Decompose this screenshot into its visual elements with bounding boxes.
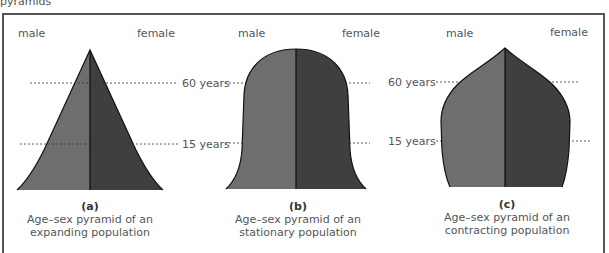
pyramid-c-desc-line2: contracting population	[445, 224, 570, 237]
pyramid-c-letter: (c)	[499, 198, 516, 211]
age-label-60-bc: 60 years	[388, 76, 436, 89]
pyramid-c-male-label: male	[446, 27, 474, 40]
pyramid-b-female-label: female	[342, 27, 380, 40]
pyramid-a-male-label: male	[18, 27, 46, 40]
pyramid-b-male-label: male	[238, 27, 266, 40]
pyramid-c: male female (c) Age–sex pyramid of an co…	[441, 26, 588, 237]
pyramid-a: male female (a) Age–sex pyramid of an ex…	[17, 27, 175, 239]
pyramid-a-female-label: female	[137, 27, 175, 40]
pyramid-b-desc-line2: stationary population	[239, 226, 357, 239]
pyramid-b-desc-line1: Age–sex pyramid of an	[235, 213, 361, 226]
pyramid-a-male	[17, 50, 90, 190]
age-label-15-ab: 15 years	[182, 138, 230, 151]
pyramid-a-female	[90, 50, 163, 190]
pyramid-a-desc-line1: Age–sex pyramid of an	[27, 213, 153, 226]
pyramid-c-female	[505, 48, 570, 187]
pyramid-a-letter: (a)	[81, 200, 98, 213]
pyramid-c-male	[441, 48, 505, 187]
pyramid-a-desc-line2: expanding population	[30, 226, 150, 239]
pyramid-b-letter: (b)	[289, 200, 307, 213]
age-label-15-bc: 15 years	[388, 135, 436, 148]
pyramid-b: male female (b) Age–sex pyramid of an st…	[226, 27, 380, 239]
pyramid-c-desc-line1: Age–sex pyramid of an	[444, 211, 570, 224]
pyramid-b-male	[226, 49, 296, 189]
pyramid-c-female-label: female	[550, 26, 588, 39]
age-label-60-ab: 60 years	[182, 77, 230, 90]
pyramid-b-female	[296, 49, 366, 189]
